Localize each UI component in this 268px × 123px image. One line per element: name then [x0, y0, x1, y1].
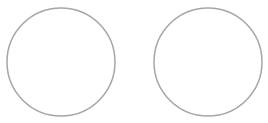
left-circle [7, 8, 115, 116]
canvas [0, 0, 268, 123]
right-circle [154, 8, 262, 116]
